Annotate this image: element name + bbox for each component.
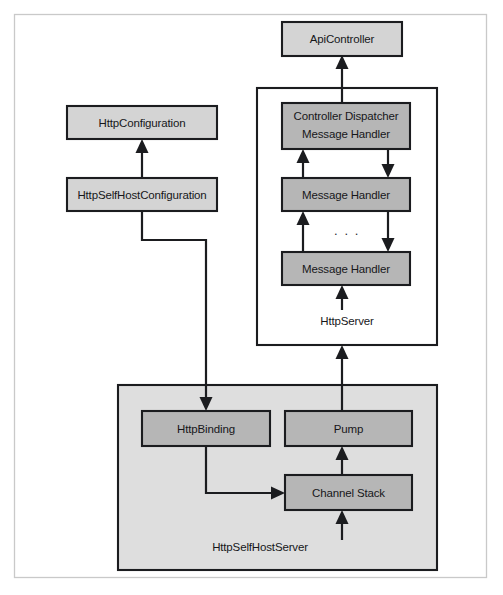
node-message-handler-2-label: Message Handler — [302, 263, 390, 275]
node-http-binding-label: HttpBinding — [177, 423, 235, 435]
connector-selfhostconfig-to-httpconfig — [136, 139, 149, 178]
node-controller-dispatcher-line1: Controller Dispatcher — [294, 110, 399, 122]
node-message-handler-1-label: Message Handler — [302, 189, 390, 201]
handler-chain-ellipsis: . . . — [334, 223, 360, 238]
container-http-self-host-server-label: HttpSelfHostServer — [212, 541, 308, 553]
node-controller-dispatcher-message-handler[interactable]: Controller Dispatcher Message Handler — [282, 103, 410, 149]
node-http-configuration[interactable]: HttpConfiguration — [67, 106, 217, 139]
node-pump[interactable]: Pump — [285, 411, 412, 446]
node-api-controller[interactable]: ApiController — [282, 22, 402, 56]
node-message-handler-2[interactable]: Message Handler — [282, 252, 410, 285]
node-api-controller-label: ApiController — [310, 33, 375, 45]
node-channel-stack[interactable]: Channel Stack — [285, 475, 412, 510]
node-channel-stack-label: Channel Stack — [312, 487, 385, 499]
connector-selfhostconfig-to-httpbinding — [142, 211, 213, 411]
node-http-self-host-configuration[interactable]: HttpSelfHostConfiguration — [67, 178, 217, 211]
node-controller-dispatcher-line2: Message Handler — [302, 128, 390, 140]
node-http-self-host-configuration-label: HttpSelfHostConfiguration — [77, 189, 206, 201]
node-http-binding[interactable]: HttpBinding — [142, 411, 270, 446]
architecture-diagram: ApiController HttpConfiguration HttpSelf… — [0, 0, 503, 595]
node-message-handler-1[interactable]: Message Handler — [282, 178, 410, 211]
node-http-configuration-label: HttpConfiguration — [99, 117, 186, 129]
node-pump-label: Pump — [334, 423, 363, 435]
container-http-server-label: HttpServer — [320, 315, 374, 327]
